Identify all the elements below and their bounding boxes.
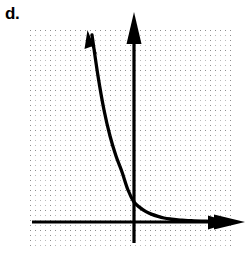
axes-and-curve	[0, 0, 247, 254]
exponential-decay-curve	[92, 35, 226, 222]
plot-area	[0, 0, 247, 254]
graph-screenshot: d.	[0, 0, 247, 254]
y-axis-arrowhead-icon	[127, 12, 142, 44]
